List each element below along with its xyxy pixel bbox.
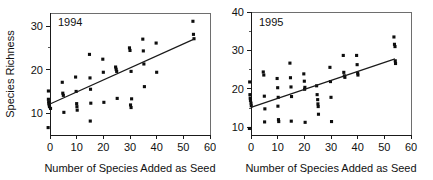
data-point xyxy=(115,70,118,73)
data-point xyxy=(288,62,291,65)
data-point xyxy=(263,120,266,123)
x-tick-label: 0 xyxy=(47,141,53,153)
panel-label-1995: 1995 xyxy=(259,16,283,28)
data-points-1994 xyxy=(47,20,196,129)
data-point xyxy=(192,33,195,36)
y-tick-label: 40 xyxy=(232,6,244,18)
chart-svg-1994: 102030 0102030405060 1994 Number of Spec… xyxy=(0,0,216,180)
panel-label-1994: 1994 xyxy=(58,16,82,28)
data-point xyxy=(89,102,92,105)
data-point xyxy=(191,20,194,23)
data-point xyxy=(329,96,332,99)
data-point xyxy=(130,70,133,73)
y-axis-ticks-1994: 102030 xyxy=(31,20,50,119)
data-point xyxy=(276,77,279,80)
data-point xyxy=(130,97,133,100)
data-point xyxy=(62,94,65,97)
data-point xyxy=(355,54,358,57)
x-tick-label: 40 xyxy=(151,141,163,153)
data-point xyxy=(328,66,331,69)
chart-svg-1995: 10203040 0102030405060 1995 Number of Sp… xyxy=(216,0,433,180)
data-point xyxy=(262,70,265,73)
x-tick-label: 20 xyxy=(97,141,109,153)
data-point xyxy=(143,85,146,88)
axes-1994 xyxy=(50,13,210,135)
data-point xyxy=(393,45,396,48)
data-point xyxy=(155,42,158,45)
x-axis-title-1995: Number of Species Added as Seed xyxy=(245,162,416,174)
data-point xyxy=(61,81,64,84)
x-tick-label: 50 xyxy=(177,141,189,153)
data-point xyxy=(317,105,320,108)
data-point xyxy=(356,73,359,76)
x-tick-label: 20 xyxy=(298,141,310,153)
data-point xyxy=(262,73,265,76)
x-tick-label: 10 xyxy=(272,141,284,153)
data-point xyxy=(303,80,306,83)
data-point xyxy=(304,121,307,124)
data-point xyxy=(277,120,280,123)
y-tick-label: 10 xyxy=(232,121,244,133)
data-point xyxy=(47,89,50,92)
x-axis-title-1994: Number of Species Added as Seed xyxy=(44,162,215,174)
data-point xyxy=(249,99,252,102)
data-point xyxy=(248,80,251,83)
data-point xyxy=(263,95,266,98)
data-point xyxy=(62,111,65,114)
chart-panel-1994: 102030 0102030405060 1994 Number of Spec… xyxy=(0,0,216,180)
data-point xyxy=(290,120,293,123)
data-point xyxy=(101,58,104,61)
data-point xyxy=(289,85,292,88)
data-point xyxy=(75,105,78,108)
data-point xyxy=(276,105,279,108)
x-tick-label: 30 xyxy=(124,141,136,153)
figure-scatter-panels: 102030 0102030405060 1994 Number of Spec… xyxy=(0,0,433,180)
data-point xyxy=(356,63,359,66)
x-tick-label: 50 xyxy=(378,141,390,153)
data-point xyxy=(75,102,78,105)
y-axis-title-1994: Species Richness xyxy=(4,30,16,118)
data-point xyxy=(302,72,305,75)
data-point xyxy=(316,98,319,101)
data-point xyxy=(47,126,50,129)
data-point xyxy=(74,76,77,79)
chart-panel-1995: 10203040 0102030405060 1995 Number of Sp… xyxy=(216,0,433,180)
data-point xyxy=(49,107,52,110)
data-point xyxy=(88,76,91,79)
data-point xyxy=(141,38,144,41)
x-axis-ticks-1995: 0102030405060 xyxy=(248,135,417,153)
y-tick-label: 30 xyxy=(31,20,43,32)
data-point xyxy=(249,102,252,105)
data-point xyxy=(317,113,320,116)
y-tick-label: 10 xyxy=(31,107,43,119)
data-point xyxy=(316,102,319,105)
data-point xyxy=(130,106,133,109)
x-axis-ticks-1994: 0102030405060 xyxy=(47,135,216,153)
data-point xyxy=(330,120,333,123)
data-point xyxy=(392,35,395,38)
data-point xyxy=(342,71,345,74)
plot-frame-1995 xyxy=(251,12,411,135)
axes-1995 xyxy=(251,12,411,135)
data-point xyxy=(128,49,131,52)
data-point xyxy=(342,54,345,57)
data-point xyxy=(102,71,105,74)
y-tick-label: 30 xyxy=(232,44,244,56)
x-tick-label: 60 xyxy=(204,141,216,153)
data-point xyxy=(89,88,92,91)
data-point xyxy=(290,95,293,98)
data-point xyxy=(289,76,292,79)
regression-line-1995 xyxy=(251,59,395,107)
data-point xyxy=(394,62,397,65)
x-tick-label: 60 xyxy=(405,141,417,153)
data-point xyxy=(76,109,79,112)
x-tick-label: 10 xyxy=(71,141,83,153)
y-tick-label: 20 xyxy=(232,83,244,95)
x-tick-label: 30 xyxy=(325,141,337,153)
data-point xyxy=(88,53,91,56)
data-point xyxy=(116,97,119,100)
x-tick-label: 0 xyxy=(248,141,254,153)
data-point xyxy=(142,62,145,65)
data-point xyxy=(263,107,266,110)
y-tick-label: 20 xyxy=(31,64,43,76)
